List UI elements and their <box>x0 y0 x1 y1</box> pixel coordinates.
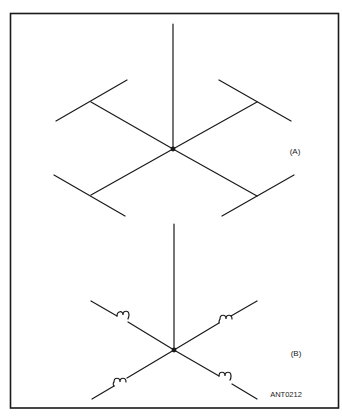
panel-a-feedpoint-dot <box>171 147 176 152</box>
panel-b-radial-upper-left <box>91 301 174 350</box>
figure-id-label: ANT0212 <box>270 390 302 399</box>
panel-b-antenna <box>91 224 257 399</box>
loading-coil-icon <box>219 315 232 323</box>
panel-a-crossbar-lower-left <box>54 175 125 216</box>
loading-coil-icon <box>219 372 231 380</box>
panel-a-antenna <box>54 24 294 216</box>
panel-a-radial-lower-right <box>173 149 257 196</box>
panel-b-feedpoint-dot <box>172 348 177 353</box>
panel-a-radial-lower-left <box>91 149 173 195</box>
panel-b-label: (B) <box>291 349 302 358</box>
panel-a-radial-upper-right <box>173 102 257 149</box>
loading-coil-icon <box>117 311 129 319</box>
panel-a-crossbar-lower-right <box>222 175 294 216</box>
panel-a-crossbar-upper-left <box>56 80 127 121</box>
panel-b-radial-upper-right <box>174 301 257 350</box>
panel-a-radial-upper-left <box>91 102 173 149</box>
antenna-diagram: (A) (B) ANT0212 <box>0 0 342 417</box>
panel-a-label: (A) <box>290 147 301 156</box>
loading-coil-icon <box>113 378 126 386</box>
panel-b-radial-lower-left <box>92 350 174 399</box>
panel-b-radial-lower-right <box>174 350 257 399</box>
panel-a-crossbar-upper-right <box>219 80 291 121</box>
